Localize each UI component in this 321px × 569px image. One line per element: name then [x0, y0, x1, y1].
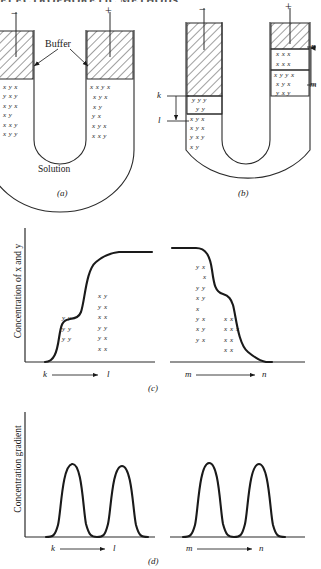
panel-c-left-upper-letters: x y y x x x y y y x x x [98, 291, 108, 354]
letter-row: y x [196, 335, 207, 345]
panel-c-right-left-letters: y x x y y x y x y x x y y x [196, 262, 207, 345]
letter-row: x x [224, 345, 240, 355]
letter-row: y x [90, 112, 110, 122]
letter-row: x y x [3, 83, 18, 92]
letter-row: x x [98, 344, 108, 355]
letter-row: x y x [90, 93, 110, 103]
panel-b-left-band-upper-letters: y y y y y [192, 96, 207, 114]
letter-row: y y [62, 313, 72, 324]
panel-d-left-curve [46, 464, 148, 537]
letter-row: x x y [90, 132, 110, 142]
panel-d-left-axis-from: k [51, 543, 55, 553]
panel-b-right-band-lower-letters: x y y x x y x y x y [274, 71, 294, 98]
panel-b-right-band-upper-letters: x x x x x x [276, 50, 291, 69]
panel-b-anode-sign: + [285, 0, 292, 15]
letter-row: y x [98, 333, 108, 344]
letter-row: x y x [3, 102, 18, 111]
letter-row: x y [3, 111, 18, 120]
panel-d-caption: (d) [148, 556, 159, 566]
letter-row: y x y [3, 92, 18, 101]
panel-b-caption: (b) [238, 188, 249, 198]
letter-row: x y [98, 291, 108, 302]
panel-b-marker-m: m [310, 79, 317, 89]
panel-c-right-axis-from: m [185, 369, 192, 379]
letter-row: y y [98, 323, 108, 334]
letter-row: x x x [276, 50, 291, 60]
panel-b-marker-n: n [311, 41, 316, 51]
panel-b-marker-k: k [157, 90, 161, 100]
letter-row: x y x [90, 122, 110, 132]
letter-row: x x [224, 314, 240, 324]
electrophoresis-figure: ELECTROPHORETIC METHODS [0, 0, 321, 569]
letter-row: x y y [3, 130, 18, 139]
panel-a-anode-sign: + [105, 4, 112, 19]
letter-row: x x x [224, 324, 240, 334]
letter-row: x y [90, 103, 110, 113]
panel-c-right-right-letters: x x x x x x x x x [224, 314, 240, 356]
panel-b-left-band-lower-letters: x y x x y x y x y x y [190, 115, 205, 152]
letter-row: x x [98, 312, 108, 323]
letter-row: x x y x [90, 83, 110, 93]
letter-row: y x [98, 302, 108, 313]
figure-canvas [0, 0, 321, 569]
panel-a-inner-wall [34, 30, 86, 164]
letter-row: x y x [190, 115, 205, 124]
panel-c-ylabel: Concentration of x and y [13, 226, 23, 356]
panel-d-right-axis-from: m [186, 543, 193, 553]
panel-a-buffer-label: Buffer [45, 38, 71, 49]
letter-row: y y [192, 105, 207, 114]
letter-row: y y [196, 283, 207, 293]
letter-row: y x y [190, 133, 205, 142]
panel-d-ylabel: Concentration gradient [13, 408, 23, 530]
letter-row: x [196, 272, 207, 282]
panel-b-marker-l: l [158, 115, 161, 125]
panel-a-cathode-sign: − [11, 6, 18, 21]
letter-row: x y x [190, 124, 205, 133]
panel-a-buffer-arrow-right [70, 49, 88, 66]
panel-b-cathode-sign: − [199, 2, 206, 17]
letter-row: y y y [192, 96, 207, 105]
letter-row: y x [196, 262, 207, 272]
panel-c-caption: (c) [148, 383, 158, 393]
letter-row: y x [196, 314, 207, 324]
panel-a-caption: (a) [57, 188, 68, 198]
panel-a-left-letters: x y x y x y x y x x y x x y x y y [3, 83, 18, 139]
panel-c-right-curve [172, 248, 272, 362]
letter-row: x x [224, 335, 240, 345]
letter-row: y y [62, 334, 72, 345]
panel-c-right-axis-to: n [262, 369, 267, 379]
letter-row: x y [196, 293, 207, 303]
letter-row: y x y [274, 89, 294, 98]
panel-d-plots [25, 412, 305, 549]
letter-row: x y y x [274, 71, 294, 80]
panel-d-right-axis-to: n [259, 543, 264, 553]
panel-c-left-lower-letters: y y y y y y [62, 313, 72, 345]
panel-a-buffer-arrow-left [34, 49, 58, 66]
letter-row: x y [190, 143, 205, 152]
letter-row: x x y [3, 121, 18, 130]
letter-row: x [196, 304, 207, 314]
cut-off-page-header: ELECTROPHORETIC METHODS [0, 0, 321, 2]
panel-b-inner-wall [222, 22, 270, 164]
letter-row: x y x [274, 80, 294, 89]
panel-c-left-axis-from: k [43, 369, 47, 379]
panel-a-solution-label: Solution [38, 164, 70, 174]
letter-row: x x x [276, 60, 291, 70]
panel-a-right-letters: x x y x x y x x y y x x y x x x y [90, 83, 110, 142]
letter-row: x y [196, 324, 207, 334]
panel-c-left-axis-to: l [107, 369, 110, 379]
panel-d-right-curve [183, 463, 285, 537]
panel-c-plots [25, 228, 305, 375]
letter-row: y y [62, 324, 72, 335]
panel-d-left-axis-to: l [113, 543, 116, 553]
